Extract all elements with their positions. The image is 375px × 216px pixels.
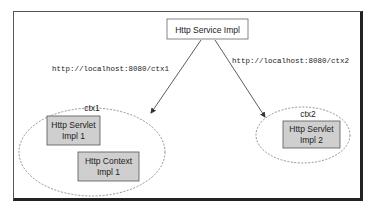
http-servlet-impl-1-node: Http Servlet Impl 1 — [47, 116, 100, 145]
context-1-line1: Http Context — [85, 156, 133, 166]
arrow-to-ctx1 — [151, 40, 201, 113]
http-service-impl-label: Http Service Impl — [175, 25, 240, 35]
arrow-to-ctx2 — [215, 40, 265, 117]
url-ctx1-label: http://localhost:8080/ctx1 — [52, 65, 170, 73]
servlet-2-line2: Impl 2 — [300, 135, 323, 145]
ctx1-label: ctx1 — [84, 103, 100, 113]
ctx2-label: ctx2 — [300, 109, 316, 119]
servlet-2-line1: Http Servlet — [289, 124, 334, 134]
servlet-1-line1: Http Servlet — [51, 120, 96, 130]
http-servlet-impl-2-node: Http Servlet Impl 2 — [283, 121, 340, 148]
url-ctx2-label: http://localhost:8080/ctx2 — [232, 57, 349, 65]
servlet-1-line2: Impl 1 — [62, 131, 85, 141]
http-service-impl-node: Http Service Impl — [167, 19, 248, 39]
http-context-impl-1-node: Http Context Impl 1 — [78, 152, 139, 181]
context-ctx2: ctx2 Http Servlet Impl 2 — [256, 107, 350, 163]
context-1-line2: Impl 1 — [97, 167, 120, 177]
context-ctx1: ctx1 Http Servlet Impl 1 Http Context Im… — [19, 103, 165, 196]
diagram-canvas: Http Service Impl http://localhost:8080/… — [0, 0, 375, 216]
